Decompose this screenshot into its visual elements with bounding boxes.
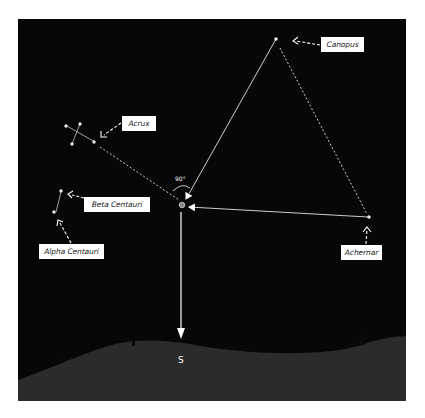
star-beta-centauri	[59, 189, 62, 192]
tree-icon	[401, 325, 406, 337]
tree-icon	[358, 330, 366, 346]
label-alpha-centauri: Alpha Centauri	[39, 244, 104, 259]
south-direction-label: S	[178, 355, 184, 365]
angle-label: 90°	[175, 175, 186, 182]
star-cross-top-right	[78, 122, 81, 125]
star-canopus	[274, 37, 278, 41]
label-acrux: Acrux	[122, 116, 156, 131]
star-cross-bottom-left	[70, 142, 73, 145]
label-canopus: Canopus	[321, 37, 364, 52]
ground-hill	[18, 336, 406, 401]
star-alpha-centauri	[52, 210, 55, 213]
tree-icon	[58, 352, 64, 362]
label-achernar: Achernar	[341, 245, 382, 260]
south-celestial-pole-point	[179, 202, 185, 208]
star-diagram: 90° S	[18, 19, 406, 401]
star-cross-top-left	[64, 124, 67, 127]
star-achernar	[367, 215, 371, 219]
label-beta-centauri: Beta Centauri	[84, 197, 150, 212]
south-arrow-head	[177, 328, 185, 339]
night-sky-panel: 90° S	[18, 19, 406, 401]
right-angle-arc	[173, 186, 190, 191]
label-pointers	[57, 37, 371, 244]
star-acrux	[92, 140, 95, 143]
